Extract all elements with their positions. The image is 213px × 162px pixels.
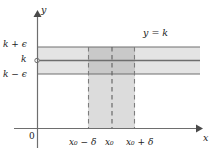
function-label-y-equals-k: y = k bbox=[143, 28, 168, 38]
x-axis-arrowhead bbox=[196, 125, 203, 133]
axis-label-k: k bbox=[21, 55, 26, 64]
axis-label-x0: x₀ bbox=[105, 138, 114, 147]
axis-label-k-plus-epsilon: k + ϵ bbox=[3, 40, 27, 49]
axis-label-x0-plus-delta: x₀ + δ bbox=[126, 138, 153, 147]
y-axis-label: y bbox=[41, 5, 46, 15]
axis-label-k-minus-epsilon: k − ϵ bbox=[3, 70, 27, 79]
epsilon-delta-constant-function-figure: k + ϵ k k − ϵ y = k y x 0 x₀ − δ x₀ x₀ +… bbox=[0, 0, 213, 162]
x-axis-label: x bbox=[203, 133, 208, 143]
axis-label-x0-minus-delta: x₀ − δ bbox=[69, 138, 96, 147]
origin-label: 0 bbox=[29, 132, 35, 141]
